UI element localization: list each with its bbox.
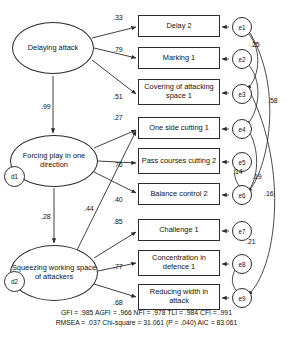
latent-delaying-attack: Delaying attack	[12, 22, 94, 74]
error-label: e1	[238, 24, 245, 31]
indicator-one-side-cutting-1: One side cutting 1	[138, 117, 220, 139]
error-e9: e9	[232, 288, 252, 308]
error-e8: e8	[232, 254, 252, 274]
error-label: e8	[238, 261, 245, 268]
correlation-coefficient: .14	[233, 168, 243, 175]
loading-coefficient: .33	[113, 14, 123, 21]
sem-path-diagram: Delaying attack Forcing play in one dire…	[0, 0, 293, 348]
indicator-balance-control-2: Balance control 2	[138, 183, 220, 205]
correlation-coefficient: .58	[268, 97, 278, 104]
loading-coefficient: .76	[113, 161, 123, 168]
indicator-reducing-width-in-attack: Reducing width in attack	[138, 284, 220, 310]
disturbance-label: d2	[11, 278, 18, 285]
indicator-concentration-in-defence-1: Concentration in defence 1	[138, 250, 220, 276]
indicator-label: One side cutting 1	[149, 124, 209, 133]
indicator-label: Pass courses cutting 2	[142, 157, 216, 166]
indicator-pass-courses-cutting-2: Pass courses cutting 2	[138, 148, 220, 174]
indicator-delay-2: Delay 2	[138, 15, 220, 37]
indicator-label: Reducing width in attack	[139, 288, 219, 305]
structural-path-coefficient: .99	[41, 103, 51, 110]
latent-label: Forcing play in one direction	[11, 152, 97, 169]
error-label: e7	[238, 228, 245, 235]
indicator-label: Marking 1	[163, 54, 195, 63]
indicator-label: Concentration in defence 1	[139, 254, 219, 271]
error-label: e2	[238, 56, 245, 63]
error-e2: e2	[232, 49, 252, 69]
error-label: e3	[238, 91, 245, 98]
fit-statistics-line-2: RMSEA = .037 Chi-square = 31.061 (P = .0…	[0, 318, 293, 328]
fit-statistics: GFI = .985 AGFI = .966 NFI = .978 TLI = …	[0, 308, 293, 328]
error-e4: e4	[232, 119, 252, 139]
structural-path-coefficient: .44	[84, 205, 94, 212]
error-e3: e3	[232, 84, 252, 104]
correlation-coefficient: .16	[264, 190, 274, 197]
error-label: e5	[238, 159, 245, 166]
loading-coefficient: .77	[113, 263, 123, 270]
indicator-label: Challenge 1	[159, 226, 198, 235]
disturbance-d2: d2	[4, 271, 25, 292]
correlation-coefficient: .19	[252, 173, 262, 180]
error-label: e6	[238, 192, 245, 199]
loading-coefficient: .85	[113, 218, 123, 225]
loading-coefficient: .51	[113, 93, 123, 100]
latent-squeezing-working-space: Squeezing working space of attackers	[10, 245, 98, 301]
loading-coefficient: .68	[113, 299, 123, 306]
indicator-covering-attacking-space-1: Covering of attacking space 1	[138, 79, 220, 105]
indicator-marking-1: Marking 1	[138, 47, 220, 69]
correlation-coefficient: .21	[246, 238, 256, 245]
error-label: e9	[238, 295, 245, 302]
loading-coefficient: .79	[113, 46, 123, 53]
fit-statistics-line-1: GFI = .985 AGFI = .966 NFI = .978 TLI = …	[0, 308, 293, 318]
loading-coefficient: .27	[113, 114, 123, 121]
error-e1: e1	[232, 17, 252, 37]
disturbance-d1: d1	[4, 166, 25, 187]
latent-label: Delaying attack	[28, 44, 79, 53]
structural-path-coefficient: .28	[41, 213, 51, 220]
indicator-challenge-1: Challenge 1	[138, 219, 220, 241]
indicator-label: Covering of attacking space 1	[139, 83, 219, 100]
correlation-coefficient: .25	[250, 41, 260, 48]
error-e6: e6	[232, 185, 252, 205]
loading-coefficient: .40	[113, 196, 123, 203]
error-label: e4	[238, 126, 245, 133]
indicator-label: Balance control 2	[150, 190, 207, 199]
indicator-label: Delay 2	[166, 22, 191, 31]
disturbance-label: d1	[11, 173, 18, 180]
